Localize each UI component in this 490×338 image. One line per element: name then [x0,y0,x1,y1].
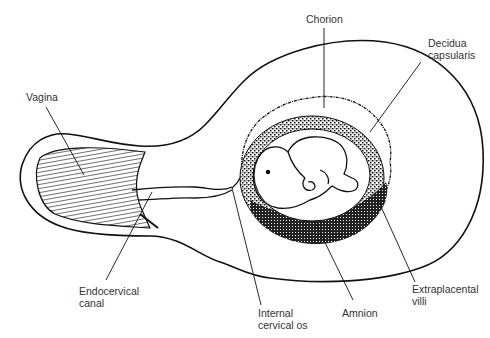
label-endocervical-canal-line1: Endocervical [79,285,139,297]
endocervical-canal [132,187,232,200]
label-extraplacental-villi-line2: villi [412,295,479,307]
vagina-canal [36,148,150,228]
label-vagina: Vagina [26,91,58,103]
label-endocervical-canal-line2: canal [79,297,139,309]
anatomy-diagram: Vagina Chorion Decidua capsularis Endoce… [0,0,490,338]
label-endocervical-canal: Endocervical canal [79,285,139,309]
label-amnion: Amnion [342,307,378,319]
amniotic-cavity [254,129,370,221]
label-internal-cervical-os: Internal cervical os [258,307,308,331]
label-internal-cervical-os-line2: cervical os [258,319,308,331]
leader-extraplacental-villi [378,200,415,282]
label-extraplacental-villi-line1: Extraplacental [412,283,479,295]
label-chorion: Chorion [306,13,343,25]
leader-decidua-capsularis [370,62,421,132]
label-decidua-capsularis-line2: capsularis [428,49,475,61]
label-internal-cervical-os-line1: Internal [258,307,308,319]
label-decidua-capsularis: Decidua capsularis [428,37,475,61]
label-extraplacental-villi: Extraplacental villi [412,283,479,307]
label-decidua-capsularis-line1: Decidua [428,37,475,49]
